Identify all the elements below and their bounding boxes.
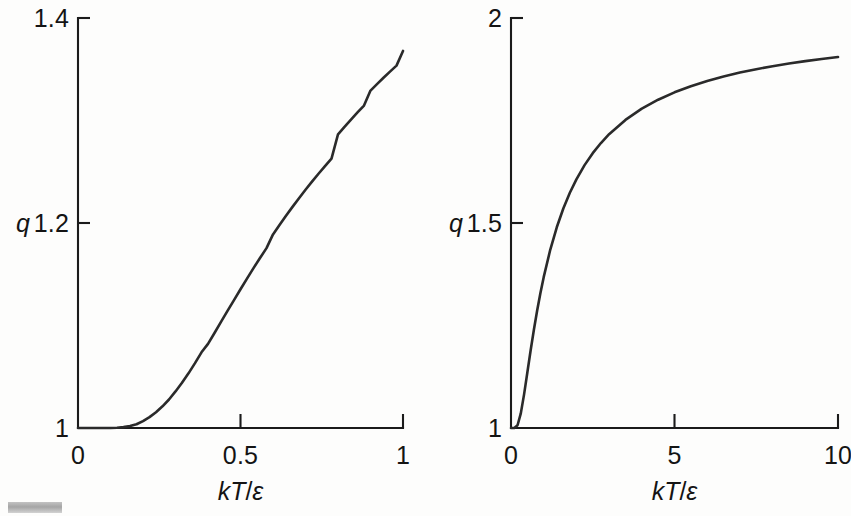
- chart-panel-left: 1.4 1.2 1 q 0 0.5 1 kT/ε: [0, 0, 425, 516]
- x-ticklabel-0.5-left: 0.5: [223, 441, 258, 469]
- x-axis-label-left: kT/ε: [218, 477, 265, 505]
- x-axis-label-right-slash: /: [679, 477, 686, 505]
- x-axis-label-left-den: ε: [252, 477, 264, 505]
- x-ticklabel-5-right: 5: [667, 441, 681, 469]
- page-corner-mark: [8, 502, 62, 513]
- x-ticklabel-0-right: 0: [504, 441, 518, 469]
- chart-panel-right: 2 1.5 1 q 0 5 10 kT/ε: [425, 0, 851, 516]
- x-ticklabel-1-left: 1: [396, 441, 410, 469]
- chart-svg-right: 2 1.5 1 q 0 5 10 kT/ε: [425, 0, 851, 516]
- x-ticklabel-10-right: 10: [824, 441, 851, 469]
- y-ticklabel-1-right: 1: [488, 414, 502, 442]
- x-axis-label-right-num: kT: [652, 477, 682, 505]
- y-ticklabel-1.5-right: 1.5: [467, 209, 502, 237]
- curve-left: [78, 51, 403, 428]
- x-axis-label-left-num: kT: [218, 477, 248, 505]
- curve-right: [511, 57, 838, 428]
- y-ticklabel-2-right: 2: [488, 4, 502, 32]
- axis-lines-right: [511, 18, 838, 428]
- y-ticklabel-1.4-left: 1.4: [34, 4, 69, 32]
- y-ticklabel-1.2-left: 1.2: [34, 209, 69, 237]
- x-ticklabel-0-left: 0: [71, 441, 85, 469]
- chart-svg-left: 1.4 1.2 1 q 0 0.5 1 kT/ε: [0, 0, 425, 516]
- x-axis-label-right-den: ε: [686, 477, 698, 505]
- x-axis-label-left-slash: /: [245, 477, 252, 505]
- figure-two-level-partition-function: 1.4 1.2 1 q 0 0.5 1 kT/ε 2 1.5 1 q 0: [0, 0, 851, 516]
- y-ticklabel-1-left: 1: [55, 414, 69, 442]
- y-axis-label-left: q: [16, 209, 30, 237]
- x-axis-label-right: kT/ε: [652, 477, 699, 505]
- y-axis-label-right: q: [449, 209, 463, 237]
- axis-lines-left: [78, 18, 403, 428]
